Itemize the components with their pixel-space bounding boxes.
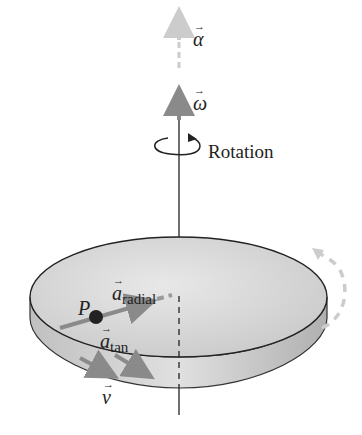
v-label: v xyxy=(102,386,111,409)
rotation-label: Rotation xyxy=(208,141,273,163)
rotating-disk-diagram xyxy=(0,0,362,435)
a-radial-label: aradial xyxy=(112,282,156,308)
point-p-label: P xyxy=(78,297,90,320)
alpha-label: α xyxy=(193,28,204,51)
rotation-curl-icon xyxy=(155,133,200,155)
a-tan-label: atan xyxy=(100,330,128,356)
omega-label: ω xyxy=(193,92,207,115)
